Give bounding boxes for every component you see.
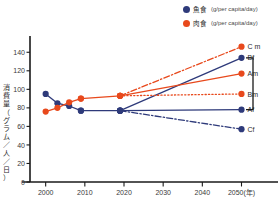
- data-point-Bf[interactable]: [238, 55, 244, 61]
- data-point-meat-historical[interactable]: [54, 105, 60, 111]
- series-line-meat-historical: [46, 99, 81, 112]
- x-axis-tick-label: 2000: [38, 189, 54, 196]
- series-line-fish-historical: [46, 94, 81, 111]
- series-line-meat-baseline-to-2020: [81, 96, 120, 99]
- y-axis-tick-label: 80: [17, 104, 25, 111]
- endpoint-label-Cf: Cf: [248, 126, 255, 133]
- y-axis-tick-label: 120: [13, 67, 25, 74]
- data-point-meat-baseline-to-2020[interactable]: [78, 96, 84, 102]
- y-axis-tick-label: 100: [13, 86, 25, 93]
- series-line-Cf: [120, 111, 241, 130]
- y-axis-tick-label: 60: [17, 123, 25, 130]
- chart-plot-area: 0204060801001201402000201020202030204020…: [0, 0, 279, 204]
- data-point-Cf[interactable]: [238, 126, 244, 132]
- data-point-Bm[interactable]: [238, 91, 244, 97]
- data-point-meat-historical[interactable]: [43, 108, 49, 114]
- chart-container: 魚食 (g/per capita/day) 肉食 (g/per capita/d…: [0, 0, 279, 204]
- x-axis-tick-label: 2030: [155, 189, 171, 196]
- y-axis-tick-label: 0: [21, 179, 25, 186]
- data-point-Af[interactable]: [238, 107, 244, 113]
- series-line-Cm: [120, 47, 241, 96]
- x-axis-tick-label: 2050(年): [228, 188, 255, 197]
- x-axis-tick-label: 2040: [195, 189, 211, 196]
- data-point-Am[interactable]: [238, 70, 244, 76]
- series-line-Bm: [120, 94, 241, 96]
- endpoint-label-Cm: C m: [248, 43, 261, 50]
- data-point-Cm[interactable]: [238, 44, 244, 50]
- x-axis-tick-label: 2020: [116, 189, 132, 196]
- data-point-Cf[interactable]: [117, 108, 123, 114]
- y-axis-tick-label: 140: [13, 49, 25, 56]
- data-point-fish-historical[interactable]: [43, 91, 49, 97]
- y-axis-tick-label: 40: [17, 142, 25, 149]
- series-line-Am: [120, 74, 241, 96]
- data-point-meat-historical[interactable]: [66, 99, 72, 105]
- data-point-fish-baseline-to-2020[interactable]: [78, 108, 84, 114]
- series-line-Af: [120, 110, 241, 111]
- data-point-Bm[interactable]: [117, 93, 123, 99]
- scenario-bracket: [246, 58, 253, 110]
- y-axis-tick-label: 20: [17, 160, 25, 167]
- x-axis-tick-label: 2010: [77, 189, 93, 196]
